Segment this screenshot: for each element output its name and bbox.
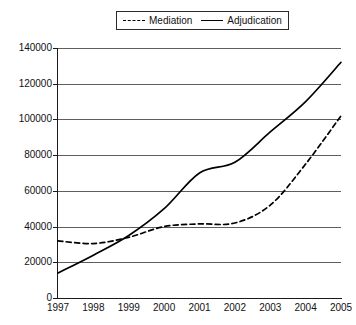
solid-line-swatch-icon xyxy=(201,20,223,21)
legend-label-adjudication: Adjudication xyxy=(227,16,281,26)
y-axis-tick-label: 20000 xyxy=(2,257,52,267)
y-axis-tick xyxy=(53,84,57,85)
x-axis-tick-label: 2000 xyxy=(144,303,184,313)
x-axis-line xyxy=(57,298,342,299)
gridline-horizontal xyxy=(58,191,341,192)
y-axis-tick-label: 40000 xyxy=(2,222,52,232)
y-axis-tick-label: 100000 xyxy=(2,114,52,124)
y-axis-tick xyxy=(53,298,57,299)
legend-entry-adjudication: Adjudication xyxy=(201,16,281,26)
gridline-horizontal xyxy=(58,48,341,49)
y-axis-tick xyxy=(53,191,57,192)
gridline-horizontal xyxy=(58,262,341,263)
y-axis-tick xyxy=(53,155,57,156)
x-axis-tick-label: 1997 xyxy=(38,303,78,313)
x-axis-tick-label: 2003 xyxy=(250,303,290,313)
gridline-horizontal xyxy=(58,227,341,228)
gridline-horizontal xyxy=(58,155,341,156)
y-axis-tick-label: 0 xyxy=(2,293,52,303)
y-axis-tick xyxy=(53,119,57,120)
chart-legend: Mediation Adjudication xyxy=(116,11,289,30)
x-axis-tick-label: 2001 xyxy=(180,303,220,313)
gridline-horizontal xyxy=(58,119,341,120)
x-axis-tick-label: 2002 xyxy=(215,303,255,313)
x-axis-tick-label: 2004 xyxy=(286,303,326,313)
line-chart: Mediation Adjudication 02000040000600008… xyxy=(0,0,356,325)
legend-entry-mediation: Mediation xyxy=(123,16,192,26)
y-axis-tick xyxy=(53,48,57,49)
gridline-horizontal xyxy=(58,84,341,85)
series-line-adjudication xyxy=(58,62,341,273)
y-axis-tick-label: 140000 xyxy=(2,43,52,53)
x-axis-tick-label: 1998 xyxy=(73,303,113,313)
y-axis-tick xyxy=(53,262,57,263)
y-axis-tick xyxy=(53,227,57,228)
y-axis-tick-label: 80000 xyxy=(2,150,52,160)
x-axis-tick-label: 1999 xyxy=(109,303,149,313)
y-axis-tick-label: 120000 xyxy=(2,79,52,89)
legend-label-mediation: Mediation xyxy=(149,16,192,26)
series-line-mediation xyxy=(58,116,341,244)
dashed-line-swatch-icon xyxy=(123,20,145,21)
y-axis-tick-label: 60000 xyxy=(2,186,52,196)
x-axis-tick-label: 2005 xyxy=(321,303,356,313)
